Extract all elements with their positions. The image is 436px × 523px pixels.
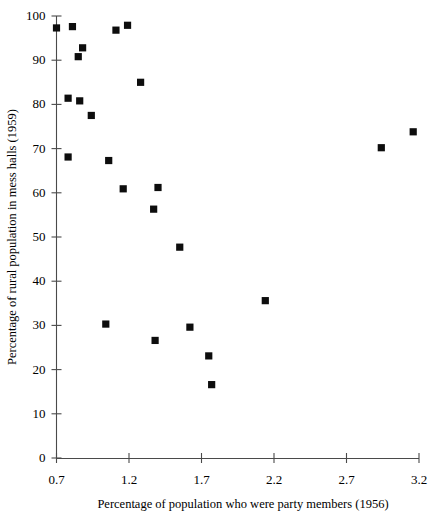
x-axis-title: Percentage of population who were party … [97, 497, 388, 511]
data-point-marker [205, 352, 212, 359]
data-point-marker [69, 23, 76, 30]
data-point-marker [150, 206, 157, 213]
x-tick-label: 2.7 [338, 472, 355, 487]
y-axis-title: Percentage of rural population in mess h… [5, 109, 19, 365]
y-tick-label: 50 [33, 229, 46, 244]
y-tick-label: 80 [33, 96, 46, 111]
y-tick-label: 30 [33, 317, 46, 332]
data-point-marker [105, 157, 112, 164]
data-point-marker [120, 185, 127, 192]
data-point-marker [262, 297, 269, 304]
data-point-marker [75, 53, 82, 60]
x-tick-label: 1.2 [121, 472, 137, 487]
x-tick-label: 1.7 [193, 472, 210, 487]
data-point-marker [378, 144, 385, 151]
data-point-marker [88, 112, 95, 119]
data-point-marker [176, 244, 183, 251]
scatter-plot-canvas: 0102030405060708090100 0.71.21.72.22.73.… [0, 0, 436, 523]
data-point-marker [65, 153, 72, 160]
data-point-marker [154, 184, 161, 191]
data-point-marker [65, 95, 72, 102]
x-tick-label: 2.2 [266, 472, 282, 487]
scatter-chart-figure: 0102030405060708090100 0.71.21.72.22.73.… [0, 0, 436, 523]
x-tick-label: 3.2 [411, 472, 427, 487]
data-point-marker [152, 337, 159, 344]
x-axis: 0.71.21.72.22.73.2 [48, 453, 427, 487]
data-point-marker [76, 97, 83, 104]
y-axis: 0102030405060708090100 [26, 8, 62, 465]
data-point-marker [186, 324, 193, 331]
x-tick-label: 0.7 [48, 472, 65, 487]
data-point-marker [410, 128, 417, 135]
y-tick-label: 70 [33, 141, 46, 156]
y-tick-label: 0 [39, 450, 46, 465]
y-tick-label: 60 [33, 185, 46, 200]
data-point-marker [112, 27, 119, 34]
y-tick-label: 100 [26, 8, 46, 23]
y-tick-label: 20 [33, 362, 46, 377]
y-tick-label: 90 [33, 52, 46, 67]
data-point-marker [124, 22, 131, 29]
data-point-group [53, 22, 417, 389]
y-tick-label: 40 [33, 273, 46, 288]
data-point-marker [53, 24, 60, 31]
y-axis-tick-labels: 0102030405060708090100 [26, 8, 46, 465]
data-point-marker [137, 79, 144, 86]
x-axis-tick-labels: 0.71.21.72.22.73.2 [48, 472, 427, 487]
data-point-marker [102, 320, 109, 327]
data-point-marker [79, 44, 86, 51]
y-tick-label: 10 [33, 406, 46, 421]
data-point-marker [208, 381, 215, 388]
